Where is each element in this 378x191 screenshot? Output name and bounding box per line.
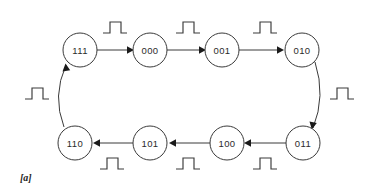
- edge-000-to-001: [167, 46, 206, 54]
- node-label: 000: [141, 45, 158, 56]
- clock-pulse-label-1: [103, 22, 127, 33]
- state-node-101[interactable]: 101: [133, 126, 167, 160]
- node-label: 010: [293, 45, 310, 56]
- state-node-111[interactable]: 111: [63, 33, 97, 67]
- node-label: 110: [67, 138, 83, 149]
- state-node-001[interactable]: 001: [205, 33, 239, 67]
- edge-101-to-110: [93, 139, 133, 147]
- edge-arc: [58, 65, 66, 127]
- edge-010-to-011: [310, 62, 321, 130]
- state-transition-diagram: 111 000 001 010 011 100: [0, 0, 378, 191]
- clock-pulse-label-8: [25, 88, 49, 99]
- clock-pulse-icon: [100, 158, 124, 169]
- state-node-000[interactable]: 000: [133, 33, 167, 67]
- clock-pulse-icon: [176, 158, 200, 169]
- clock-pulse-icon: [103, 22, 127, 33]
- clock-pulse-icon: [25, 88, 49, 99]
- node-label: 011: [295, 138, 311, 149]
- arrowhead-icon: [93, 139, 100, 147]
- clock-pulse-icon: [253, 22, 277, 33]
- clock-pulse-label-2: [176, 22, 200, 33]
- edge-100-to-101: [169, 139, 210, 147]
- edge-110-to-111: [58, 64, 70, 128]
- edge-group: [58, 46, 320, 147]
- clock-pulse-label-6: [176, 158, 200, 169]
- clock-pulse-icon: [330, 88, 354, 99]
- clock-pulse-label-5: [253, 158, 277, 169]
- clock-pulse-label-7: [100, 158, 124, 169]
- state-node-100[interactable]: 100: [210, 126, 244, 160]
- clock-pulse-label-3: [253, 22, 277, 33]
- node-label: 100: [218, 138, 235, 149]
- state-node-110[interactable]: 110: [58, 126, 92, 160]
- node-label: 001: [213, 45, 230, 56]
- figure-caption: [a]: [20, 172, 32, 184]
- arrowhead-icon: [244, 139, 251, 147]
- arrowhead-icon: [169, 139, 176, 147]
- state-diagram-figure: 111 000 001 010 011 100: [0, 0, 378, 191]
- node-label: 101: [141, 138, 158, 149]
- state-node-010[interactable]: 010: [285, 33, 319, 67]
- node-label: 111: [72, 45, 88, 56]
- edge-011-to-100: [244, 139, 286, 147]
- arrowhead-icon: [277, 46, 284, 54]
- edge-111-to-000: [97, 46, 134, 54]
- clock-pulse-icon: [253, 158, 277, 169]
- state-node-011[interactable]: 011: [286, 126, 320, 160]
- clock-pulse-label-4: [330, 88, 354, 99]
- edge-001-to-010: [239, 46, 284, 54]
- clock-pulse-icon: [176, 22, 200, 33]
- arrowhead-icon: [63, 64, 71, 72]
- edge-arc: [313, 62, 320, 128]
